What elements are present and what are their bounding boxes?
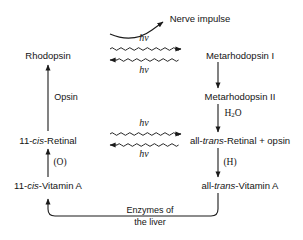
node-stereo-descriptor: trans (214, 180, 235, 191)
label-opsin: Opsin (54, 92, 78, 103)
label-photon-top-reverse: hν (139, 64, 148, 75)
node-stereo-descriptor: trans (203, 135, 224, 146)
label-enzymes-of-the-liver: Enzymes ofthe liver (126, 204, 173, 228)
arrow-nerve-impulse (110, 22, 163, 38)
label-water: H2O (224, 108, 241, 121)
node-metarhodopsin-2: Metarhodopsin II (205, 91, 276, 102)
label-line-1: Enzymes of (126, 205, 173, 215)
node-prefix: 11- (19, 135, 32, 146)
label-photon-top-forward: hν (139, 32, 148, 43)
node-nerve-impulse: Nerve impulse (170, 13, 231, 24)
label-hydrogenation: (H) (223, 157, 236, 168)
wavy-arrow-rhodopsin-to-metarhodopsin1 (110, 48, 181, 51)
wavy-arrow-trans-retinal-to-cis-retinal (110, 144, 179, 147)
label-photon-bottom-reverse: hν (139, 148, 148, 159)
rhodopsin-cycle-diagram: Rhodopsin Metarhodopsin I Metarhodopsin … (0, 0, 303, 240)
node-suffix: -Vitamin A (39, 180, 82, 191)
node-suffix: -Retinal (44, 135, 77, 146)
node-suffix: -Vitamin A (235, 180, 278, 191)
node-all-trans-retinal-plus-opsin: all-trans-Retinal + opsin (190, 135, 290, 146)
wavy-arrow-cis-retinal-to-trans-retinal (110, 133, 181, 136)
node-metarhodopsin-1: Metarhodopsin I (206, 50, 274, 61)
label-photon-bottom-forward: hν (139, 117, 148, 128)
node-prefix: all- (202, 180, 215, 191)
node-suffix: -Retinal + opsin (224, 135, 290, 146)
node-prefix: 11- (14, 180, 27, 191)
label-line-2: the liver (134, 217, 166, 227)
node-11-cis-vitamin-a: 11-cis-Vitamin A (14, 180, 82, 191)
water-subscript: 2 (231, 111, 234, 118)
node-stereo-descriptor: cis (32, 135, 44, 146)
node-11-cis-retinal: 11-cis-Retinal (19, 135, 76, 146)
wavy-arrow-metarhodopsin1-to-rhodopsin (110, 59, 179, 62)
label-oxidation: (O) (53, 157, 66, 168)
node-prefix: all- (190, 135, 203, 146)
node-all-trans-vitamin-a: all-trans-Vitamin A (202, 180, 279, 191)
node-rhodopsin: Rhodopsin (25, 50, 70, 61)
node-stereo-descriptor: cis (27, 180, 39, 191)
